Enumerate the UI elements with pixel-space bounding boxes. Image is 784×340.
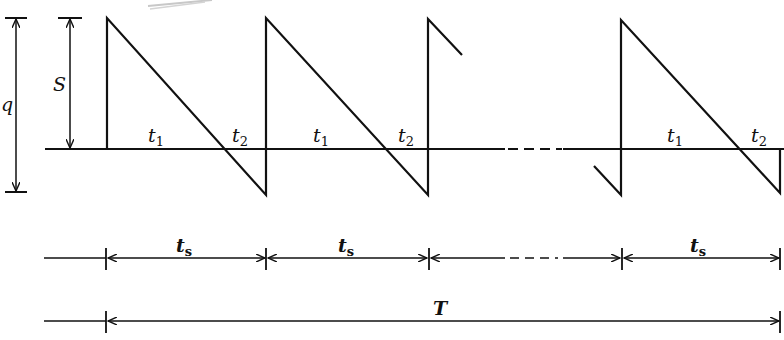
svg-text:t1: t1: [148, 124, 164, 149]
svg-text:ts: ts: [338, 234, 354, 259]
svg-text:t1: t1: [313, 124, 329, 149]
S-label: S: [53, 73, 66, 95]
cycle-1-labels: t1 t2: [148, 124, 248, 149]
inventory-waveform: [107, 18, 780, 195]
S-dimension: S: [53, 18, 82, 148]
cycle-last: [594, 20, 780, 195]
q-label: q: [1, 93, 13, 115]
T-label: T: [433, 297, 449, 319]
ts-dimension-row: [44, 248, 780, 270]
svg-text:ts: ts: [176, 234, 192, 259]
cycle-1: [107, 18, 462, 195]
scan-artifact: [148, 0, 212, 9]
svg-text:t1: t1: [667, 124, 683, 149]
svg-text:t2: t2: [398, 124, 414, 149]
cycle-2-labels: t1 t2: [313, 124, 414, 149]
sawtooth-inventory-diagram: q S t1 t2 t1 t2 t1 t2: [0, 0, 784, 340]
q-dimension: q: [1, 18, 27, 192]
T-dimension-row: [44, 311, 780, 333]
svg-text:t2: t2: [751, 124, 767, 149]
ts-labels: ts ts ts: [176, 234, 706, 259]
svg-text:ts: ts: [690, 234, 706, 259]
svg-text:t2: t2: [232, 124, 248, 149]
cycle-last-labels: t1 t2: [667, 124, 767, 149]
